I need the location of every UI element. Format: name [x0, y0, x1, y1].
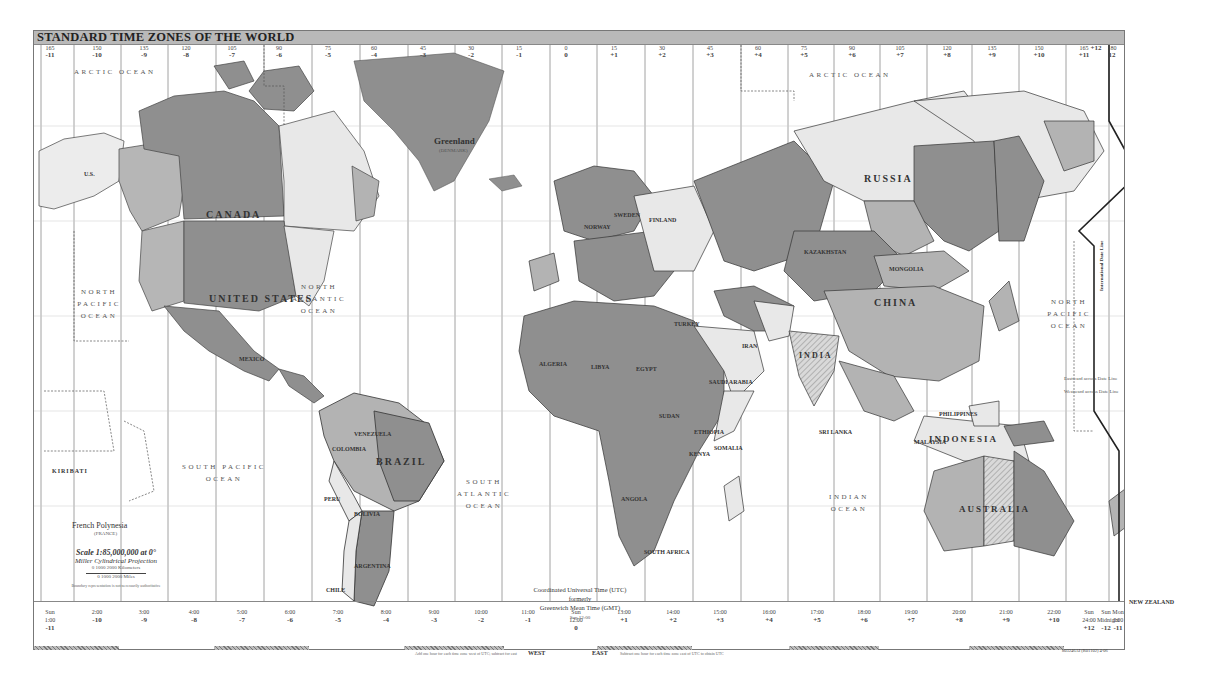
top-zone-2: 135-9	[124, 45, 164, 59]
bottom-zone-21: 22:00+10	[1032, 608, 1076, 624]
label-australia: AUSTRALIA	[959, 504, 1030, 514]
top-zone-17: 90+6	[832, 45, 872, 59]
label-bolivia: BOLIVIA	[354, 511, 380, 517]
label-angola: ANGOLA	[621, 496, 647, 502]
utc-title: Coordinated Universal Time (UTC)	[520, 585, 640, 594]
bottom-zone-13: 14:00+2	[651, 608, 695, 624]
ocean-label-north-pacific-west: NORTH PACIFIC OCEAN	[74, 286, 124, 322]
label-greenland: Greenland	[434, 136, 475, 146]
bottom-zone-8: 9:00-3	[412, 608, 456, 624]
label-mongolia: MONGOLIA	[889, 266, 924, 272]
ocean-label-indian: INDIAN OCEAN	[824, 491, 874, 515]
label-norway: NORWAY	[584, 224, 611, 230]
label-russia: RUSSIA	[864, 173, 913, 184]
label-kenya: KENYA	[689, 451, 710, 457]
label-canada: CANADA	[206, 209, 261, 220]
bottom-zone-4: 5:00-7	[220, 608, 264, 624]
top-zone-19: 120+8	[927, 45, 967, 59]
utc-gmt: Greenwich Mean Time (GMT)	[520, 603, 640, 612]
bottom-zone-17: 18:00+6	[842, 608, 886, 624]
label-south-africa: SOUTH AFRICA	[644, 549, 690, 555]
label-kiribati: KIRIBATI	[52, 468, 88, 474]
projection-label: Miller Cylindrical Projection	[36, 557, 196, 565]
ocean-label-arctic-west: ARCTIC OCEAN	[74, 66, 156, 78]
top-zone-24: 18012	[1102, 45, 1122, 59]
top-zone-14: 45+3	[690, 45, 730, 59]
bottom-zone-9: 10:00-2	[459, 608, 503, 624]
bottom-zone-2: 3:00-9	[122, 608, 166, 624]
top-zone-15: 60+4	[738, 45, 778, 59]
label-brazil: BRAZIL	[376, 456, 426, 467]
top-zone-13: 30+2	[642, 45, 682, 59]
top-zone-0: 165-11	[30, 45, 70, 59]
top-zone-11: 00	[546, 45, 586, 59]
bottom-zone-15: 16:00+4	[747, 608, 791, 624]
label-sudan: SUDAN	[659, 413, 680, 419]
bottom-zone-19: 20:00+8	[937, 608, 981, 624]
label-french-polynesia-owner: (FRANCE)	[94, 531, 117, 536]
label-saudi-arabia: SAUDI ARABIA	[709, 379, 753, 385]
bottom-zone-16: 17:00+5	[795, 608, 839, 624]
label-united-states: UNITED STATES	[209, 293, 313, 304]
top-zone-8: 45-3	[403, 45, 443, 59]
top-zone-9: 30-2	[451, 45, 491, 59]
bottom-zone-5: 6:00-6	[268, 608, 312, 624]
bottom-zone-24: Mon1:00-11	[1111, 608, 1125, 632]
top-zone-10: 15-1	[499, 45, 539, 59]
top-zone-6: 75-5	[308, 45, 348, 59]
iceland	[489, 175, 522, 191]
label-westward-date-line: Westward across Date Line	[1064, 389, 1119, 394]
label-ethiopia: ETHIOPIA	[694, 429, 724, 435]
ocean-label-south-pacific: SOUTH PACIFIC OCEAN	[179, 461, 269, 485]
label-french-polynesia: French Polynesia	[72, 521, 127, 530]
label-china: CHINA	[874, 297, 917, 308]
bottom-zone-20: 21:00+9	[984, 608, 1028, 624]
strip-bar	[404, 646, 504, 650]
label-somalia: SOMALIA	[714, 445, 743, 451]
label-iran: IRAN	[742, 343, 757, 349]
direction-west: WEST	[528, 650, 545, 656]
west-note: Add one hour for each time zone west of …	[415, 651, 520, 656]
label-peru: PERU	[324, 496, 340, 502]
map-frame: STANDARD TIME ZONES OF THE WORLD	[33, 30, 1125, 650]
world-map	[34, 31, 1124, 649]
scale-legend: Scale 1:85,000,000 at 0° Miller Cylindri…	[36, 548, 196, 588]
bottom-zone-18: 19:00+7	[889, 608, 933, 624]
bottom-zone-1: 2:00-10	[75, 608, 119, 624]
bottom-zone-14: 15:00+3	[698, 608, 742, 624]
label-date-line: International Date Line	[1099, 240, 1104, 291]
strip-bar	[214, 646, 309, 650]
label-venezuela: VENEZUELA	[354, 431, 391, 437]
scale-km: 0 1000 2000 Kilometers	[36, 565, 196, 570]
label-greenland-owner: (DENMARK)	[439, 148, 468, 153]
label-philippines: PHILIPPINES	[939, 411, 977, 417]
bottom-zone-7: 8:00-4	[364, 608, 408, 624]
strip-bar	[969, 646, 1064, 650]
label-new-zealand: NEW ZEALAND	[1129, 599, 1174, 605]
top-zone-21: 150+10	[1019, 45, 1059, 59]
bottom-zone-6: 7:00-5	[316, 608, 360, 624]
label-chile: CHILE	[326, 587, 345, 593]
label-argentina: ARGENTINA	[354, 563, 391, 569]
bottom-zone-0: Sun1:00-11	[28, 608, 72, 632]
north-america	[39, 61, 379, 403]
utc-formerly: formerly	[520, 594, 640, 603]
scale-note: Boundary representation is not necessari…	[36, 583, 196, 588]
top-zone-1: 150-10	[77, 45, 117, 59]
utc-noon: Sun 12:00	[520, 615, 640, 620]
label-us-alaska: U.S.	[84, 171, 95, 177]
map-id: 803246AI (R01102) 4-06	[1062, 648, 1108, 653]
label-india: INDIA	[799, 351, 833, 360]
top-zone-20: 135+9	[972, 45, 1012, 59]
greenland	[354, 53, 504, 191]
label-colombia: COLOMBIA	[332, 446, 366, 452]
label-egypt: EGYPT	[636, 366, 657, 372]
label-sri-lanka: SRI LANKA	[819, 429, 852, 435]
scale-title: Scale 1:85,000,000 at 0°	[36, 548, 196, 557]
top-zone-7: 60-4	[354, 45, 394, 59]
label-kazakhstan: KAZAKHSTAN	[804, 249, 846, 255]
direction-east: EAST	[592, 650, 608, 656]
ocean-label-arctic-east: ARCTIC OCEAN	[809, 69, 891, 81]
scale-mi: 0 1000 2000 Miles	[36, 574, 196, 579]
label-mexico: MEXICO	[239, 356, 264, 362]
